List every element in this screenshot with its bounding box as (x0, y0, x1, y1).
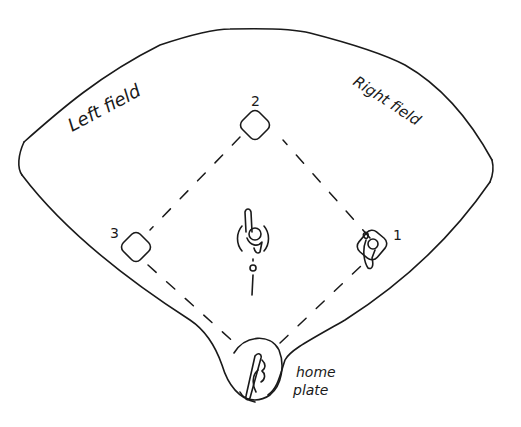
plate-label: plate (292, 382, 328, 398)
baseball (250, 265, 256, 271)
home-label: home (296, 364, 336, 380)
pitcher-head (249, 228, 261, 240)
first-base-label: 1 (393, 227, 402, 243)
pitcher-motion-arc-left (238, 226, 243, 251)
pitcher-motion-arc-right (264, 226, 269, 251)
third-base-label: 3 (110, 225, 119, 241)
first-baseman-head (368, 239, 378, 249)
baseline-home-to-first (280, 265, 362, 343)
ball-trajectory-line (252, 275, 253, 295)
baseline-second-to-third (150, 137, 240, 230)
first-baseman-body (364, 240, 375, 269)
second-base (238, 108, 272, 142)
pitcher-figure (238, 209, 269, 253)
batter-figure (246, 354, 265, 400)
left-outfield-corner (19, 142, 24, 175)
baseball-field-diagram: 2 3 1 Left field Right field home plate (0, 0, 521, 427)
right-field-label: Right field (350, 72, 425, 129)
second-base-label: 2 (251, 93, 260, 109)
left-field-label: Left field (64, 79, 144, 135)
baseline-first-to-second (283, 140, 370, 238)
left-foul-line (22, 175, 255, 402)
third-base (119, 230, 153, 264)
baseline-third-to-home (148, 265, 237, 345)
right-outfield-corner (490, 160, 493, 182)
